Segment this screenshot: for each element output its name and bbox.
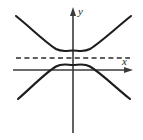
- y-axis-label: y: [77, 5, 83, 17]
- x-axis-arrow-icon: [124, 67, 133, 73]
- y-axis-arrow-icon: [70, 7, 76, 16]
- figure-canvas: y x: [0, 0, 143, 140]
- hyperbola-figure: y x: [0, 0, 143, 140]
- x-axis-label: x: [121, 55, 127, 67]
